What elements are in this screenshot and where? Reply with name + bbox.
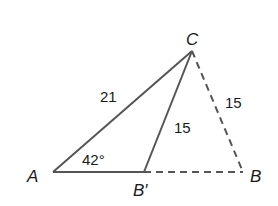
triangle-diagram: C A B′ B 21 15 15 42° — [0, 0, 278, 206]
side-label-CB: 15 — [225, 94, 242, 111]
vertex-label-A: A — [26, 167, 38, 186]
side-label-AC: 21 — [100, 88, 117, 105]
angle-label-A: 42° — [82, 151, 105, 168]
side-CB-dashed — [192, 51, 243, 172]
side-AC — [53, 51, 192, 172]
vertex-label-C: C — [186, 30, 199, 49]
vertex-label-B: B — [250, 167, 261, 186]
side-label-CB-prime: 15 — [174, 119, 191, 136]
side-CB-prime — [144, 51, 192, 172]
vertex-label-B-prime: B′ — [133, 181, 148, 200]
